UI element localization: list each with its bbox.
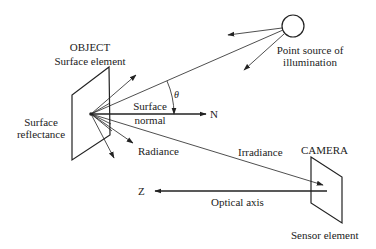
camera-label: CAMERA [301,144,348,156]
radiance-label: Radiance [138,145,179,157]
point-source-label-1: Point source of [270,44,350,56]
reflected-ray-down [91,114,114,158]
surface-reflectance-label-2: reflectance [14,128,68,140]
theta-label: θ [174,89,179,101]
radiometry-diagram: OBJECT Surface element Surface reflectan… [0,0,376,249]
incident-ray [91,30,283,114]
sensor-element-label: Sensor element [291,229,359,241]
z-axis-label: Z [138,185,145,197]
camera-sensor-element [311,157,342,223]
point-source-label-2: illumination [270,56,350,68]
surface-element-label: Surface element [50,55,130,67]
point-source-circle [282,15,304,37]
object-label: OBJECT [66,41,114,53]
irradiance-label: Irradiance [238,146,283,158]
optical-axis-label: Optical axis [211,196,264,208]
surface-normal-label-1: Surface [126,100,174,112]
surface-normal-label-2: normal [126,114,174,126]
normal-symbol-label: N [210,108,218,120]
surface-reflectance-label-1: Surface [14,116,68,128]
